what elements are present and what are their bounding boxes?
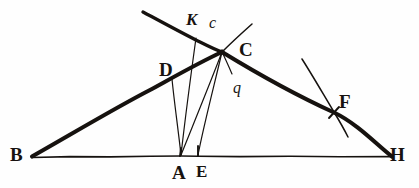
label-point-C: C bbox=[239, 40, 253, 59]
label-point-E: E bbox=[196, 163, 207, 180]
label-point-K: K bbox=[186, 11, 197, 28]
node-dot-C bbox=[219, 49, 224, 54]
tick-at-A bbox=[180, 148, 181, 156]
base-line-BH bbox=[32, 156, 392, 158]
label-point-H: H bbox=[390, 145, 405, 164]
line-D-to-A bbox=[172, 79, 181, 155]
label-point-c-lower: c bbox=[209, 15, 216, 31]
label-point-A: A bbox=[172, 163, 186, 182]
label-point-B: B bbox=[10, 145, 23, 164]
label-point-F: F bbox=[339, 92, 351, 111]
label-point-q: q bbox=[233, 80, 241, 96]
side-line-BC bbox=[32, 52, 222, 157]
label-point-D: D bbox=[159, 60, 173, 79]
geometry-figure: B D K c C q F A E H bbox=[0, 0, 419, 188]
